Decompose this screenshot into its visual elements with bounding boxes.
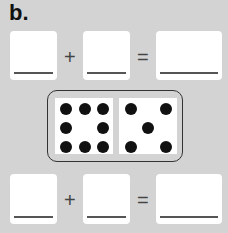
- answer-line: [160, 216, 218, 218]
- equation-2-result-box[interactable]: [156, 174, 222, 224]
- plus-sign: +: [64, 190, 76, 210]
- pip: [142, 122, 154, 134]
- answer-line: [87, 216, 126, 218]
- equation-1-operand-1-box[interactable]: [10, 31, 57, 80]
- pip: [60, 122, 72, 134]
- answer-line: [14, 72, 53, 74]
- domino-left-half: [55, 98, 113, 154]
- equation-2-operand-1-box[interactable]: [10, 174, 57, 224]
- pip: [160, 141, 172, 153]
- pip: [79, 103, 91, 115]
- pip: [97, 103, 109, 115]
- pip: [125, 103, 137, 115]
- equation-2-operand-2-box[interactable]: [83, 174, 130, 224]
- pip: [60, 103, 72, 115]
- answer-line: [14, 216, 53, 218]
- equals-sign: =: [137, 47, 149, 67]
- pip: [125, 141, 137, 153]
- answer-line: [160, 72, 218, 74]
- problem-label: b.: [9, 0, 29, 26]
- pip: [160, 103, 172, 115]
- plus-sign: +: [64, 47, 76, 67]
- pip: [97, 141, 109, 153]
- equation-1-result-box[interactable]: [156, 31, 222, 80]
- domino: [47, 90, 183, 162]
- pip: [97, 122, 109, 134]
- equals-sign: =: [137, 190, 149, 210]
- pip: [79, 141, 91, 153]
- domino-right-half: [119, 98, 177, 154]
- equation-1-operand-2-box[interactable]: [83, 31, 130, 80]
- pip: [60, 141, 72, 153]
- answer-line: [87, 72, 126, 74]
